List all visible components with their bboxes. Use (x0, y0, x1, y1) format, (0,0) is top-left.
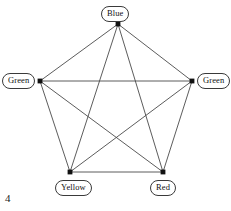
edges-group (40, 24, 192, 172)
vertices-group (38, 22, 195, 175)
graph-edge (118, 24, 192, 81)
node-label-bottom-left[interactable]: Yellow (55, 180, 92, 196)
graph-vertex-left[interactable] (38, 79, 43, 84)
graph-edge (70, 24, 118, 172)
graph-edge (70, 81, 192, 172)
graph-canvas (0, 0, 231, 211)
graph-vertex-bottom-right[interactable] (161, 170, 166, 175)
graph-edge (40, 81, 70, 172)
graph-figure: BlueGreenGreenYellowRed 4 (0, 0, 231, 211)
node-label-right[interactable]: Green (197, 73, 230, 89)
graph-edge (40, 81, 163, 172)
graph-vertex-bottom-left[interactable] (68, 170, 73, 175)
graph-vertex-right[interactable] (190, 79, 195, 84)
figure-number: 4 (5, 192, 11, 204)
graph-edge (40, 24, 118, 81)
graph-edge (118, 24, 163, 172)
node-label-left[interactable]: Green (2, 73, 35, 89)
graph-edge (163, 81, 192, 172)
graph-vertex-top[interactable] (116, 22, 121, 27)
node-label-top[interactable]: Blue (101, 6, 129, 22)
node-label-bottom-right[interactable]: Red (150, 180, 176, 196)
